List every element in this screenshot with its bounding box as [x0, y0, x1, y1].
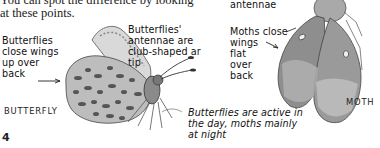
book-page: You can spot the difference by looking a… — [0, 0, 380, 148]
label-moth-wings: Moths close wings flat over back — [230, 26, 288, 81]
caption-butterfly: BUTTERFLY — [4, 106, 58, 116]
label-butterfly-antennae: Butterflies' antennae are club-shaped ar… — [128, 24, 201, 68]
label-activity: Butterflies are active in the day, moths… — [188, 107, 303, 140]
intro-text: You can spot the difference by looking a… — [0, 0, 194, 19]
label-moth-antennae: antennae — [230, 0, 276, 10]
caption-moth: MOTH — [346, 97, 374, 107]
page-number: 4 — [2, 131, 10, 144]
label-butterfly-wings: Butterflies close wings up over back — [2, 35, 59, 79]
